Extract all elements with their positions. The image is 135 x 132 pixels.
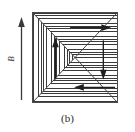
magnetization-arrow-up: [52, 37, 59, 79]
domain-square: [32, 12, 118, 103]
magnetization-arrow-left: [74, 84, 115, 91]
external-field-group: B: [0, 0, 32, 112]
field-arrow-head: [18, 17, 25, 27]
domain-walls-and-arrows: [33, 13, 117, 102]
figure-caption: (b): [0, 112, 135, 124]
magnetization-arrow-down: [100, 40, 107, 79]
figure-container: B: [0, 0, 135, 132]
field-label-B: B: [4, 52, 18, 66]
